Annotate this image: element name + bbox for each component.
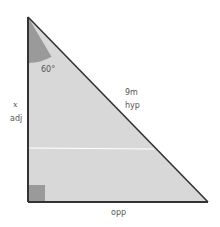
opposite-side-label: opp (111, 208, 126, 217)
adjacent-variable-label: x (13, 100, 18, 109)
right-triangle-diagram: 60° 9m hyp x adj opp (0, 0, 220, 227)
hypotenuse-side-label: hyp (125, 101, 140, 110)
angle-label: 60° (41, 65, 55, 74)
right-angle-marker (29, 185, 45, 201)
adjacent-side-label: adj (10, 114, 22, 123)
hypotenuse-length-label: 9m (125, 88, 138, 97)
